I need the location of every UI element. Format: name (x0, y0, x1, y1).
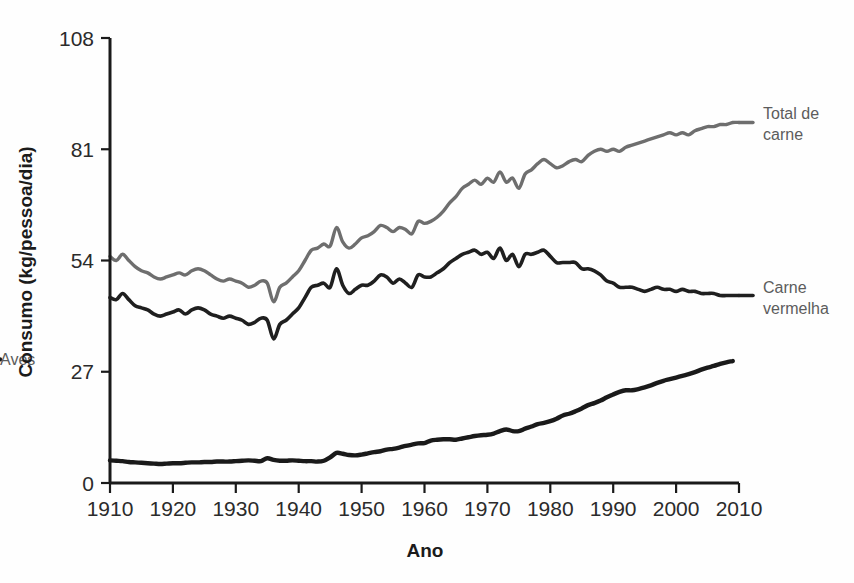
x-tick-label: 1950 (338, 497, 385, 520)
x-tick-label: 1910 (87, 497, 134, 520)
x-tick-label: 1970 (464, 497, 511, 520)
x-tick-label: 1960 (401, 497, 448, 520)
series-label-line: carne (763, 126, 803, 143)
x-tick-label: 1980 (527, 497, 574, 520)
plot-background (0, 0, 854, 583)
y-tick-label: 54 (71, 249, 95, 272)
x-tick-label: 1940 (275, 497, 322, 520)
series-label-line: Total de (763, 105, 819, 122)
x-tick-label: 2000 (653, 497, 700, 520)
x-axis-title: Ano (407, 540, 444, 561)
x-tick-label: 1930 (212, 497, 259, 520)
y-axis-title: Consumo (kg/pessoa/dia) (15, 146, 36, 377)
chart-figure: 0275481108 19101920193019401950196019701… (0, 0, 854, 583)
y-tick-label: 81 (71, 138, 94, 161)
series-label-line: Carne (763, 279, 807, 296)
x-tick-label: 2010 (716, 497, 763, 520)
line-chart: 0275481108 19101920193019401950196019701… (0, 0, 854, 583)
x-tick-label: 1990 (590, 497, 637, 520)
y-tick-label: 27 (71, 360, 94, 383)
y-tick-label: 0 (82, 472, 94, 495)
y-tick-label: 108 (59, 27, 94, 50)
x-tick-label: 1920 (150, 497, 197, 520)
series-label-line: vermelha (763, 300, 829, 317)
